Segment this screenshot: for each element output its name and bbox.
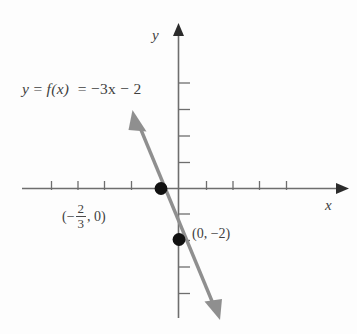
x-intercept-label-close: , 0)	[87, 210, 106, 224]
function-line-arrow-down-icon	[205, 299, 223, 320]
point-marker-x-intercept	[155, 182, 168, 195]
equation-equals-2: =	[78, 80, 87, 97]
function-line-arrow-up-icon	[129, 110, 147, 132]
x-intercept-label-open: (−	[62, 210, 75, 224]
coordinate-plane-svg	[0, 0, 357, 334]
equation-function-notation: f(x)	[47, 80, 70, 97]
x-intercept-label: (− 2 3 , 0)	[62, 203, 106, 231]
fraction-two-thirds: 2 3	[76, 202, 87, 230]
y-axis-label: y	[152, 28, 159, 43]
y-intercept-label: (0, −2)	[192, 227, 230, 241]
equation-label: y = f(x) = −3x − 2	[22, 81, 142, 97]
graph-figure: y = f(x) = −3x − 2 y x (− 2 3 , 0) (0, −…	[0, 0, 357, 334]
y-axis-ticks-positive	[178, 83, 190, 163]
equation-y: y	[22, 80, 29, 97]
x-axis-arrow-icon	[336, 183, 349, 194]
x-axis-label: x	[325, 198, 332, 213]
equation-equals-1: =	[33, 80, 42, 97]
function-line	[139, 125, 214, 306]
fraction-denominator: 3	[76, 217, 87, 231]
fraction-numerator: 2	[76, 202, 87, 216]
point-marker-y-intercept	[173, 233, 186, 246]
equation-expression: −3x − 2	[91, 80, 142, 97]
y-axis-arrow-icon	[173, 23, 184, 36]
